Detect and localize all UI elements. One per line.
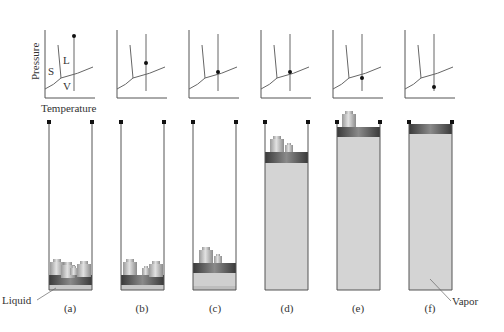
liquid-callout: Liquid <box>2 294 32 306</box>
weights <box>342 111 356 127</box>
x-axis-label: Temperature <box>41 102 97 114</box>
panel-label-d: (d) <box>281 302 294 315</box>
stop-left <box>47 120 51 124</box>
weights <box>199 247 222 263</box>
panel-label-a: (a) <box>64 302 77 315</box>
region-vapor-label: V <box>63 80 71 92</box>
phase-diagram-f <box>405 30 455 98</box>
region-solid-label: S <box>48 65 54 77</box>
state-point <box>432 85 436 89</box>
piston <box>409 124 452 134</box>
panel-label-b: (b) <box>136 302 149 315</box>
panel-label-e: (e) <box>352 302 365 315</box>
cylinder-e <box>335 111 382 290</box>
stop-right <box>90 120 94 124</box>
y-axis-label: Pressure <box>29 43 41 80</box>
state-point <box>144 61 148 65</box>
vapor-region <box>265 163 308 290</box>
state-point <box>360 76 364 80</box>
piston <box>337 127 380 137</box>
liquid-leader-line <box>37 288 56 300</box>
cylinder-b <box>119 120 166 290</box>
weights <box>270 136 293 152</box>
cylinder-f <box>407 120 454 290</box>
liquid-layer <box>49 285 92 290</box>
state-point <box>216 70 220 74</box>
vapor-callout: Vapor <box>452 295 479 307</box>
panel-label-c: (c) <box>209 302 222 315</box>
phase-diagram-c <box>189 30 239 98</box>
piston <box>265 152 308 163</box>
phase-change-diagram: S L V Pressure Temperature <box>0 0 504 332</box>
liquid-layer <box>193 286 236 290</box>
state-point <box>72 34 76 38</box>
phase-diagram-d <box>261 30 311 98</box>
phase-diagram-e <box>333 30 383 98</box>
vapor-region <box>337 137 380 290</box>
state-point <box>288 70 292 74</box>
region-liquid-label: L <box>63 54 70 66</box>
panel-label-f: (f) <box>425 302 436 315</box>
weights <box>123 259 163 277</box>
phase-diagram-a: S L V <box>45 30 95 98</box>
cylinder-a <box>47 120 94 290</box>
cylinder-c <box>191 120 238 290</box>
cylinder-d <box>263 120 310 290</box>
piston <box>193 263 236 273</box>
vapor-region <box>409 134 452 290</box>
phase-diagram-b <box>117 30 167 98</box>
